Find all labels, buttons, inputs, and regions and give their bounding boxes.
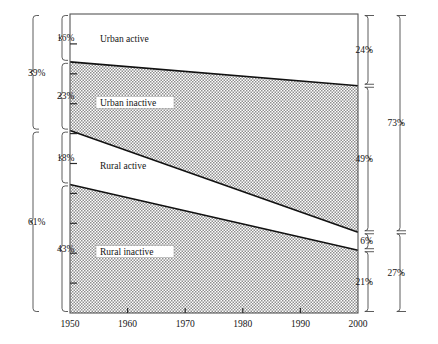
x-tick-label-1960: 1960 [118, 319, 137, 329]
right-group-urban-label: 73% [388, 118, 406, 128]
right-bracket-group: 24%49%6%21%73%27% [356, 16, 406, 312]
x-axis-tick-labels: 195019601970198019902000 [61, 319, 368, 329]
right-segment-49-label: 49% [356, 154, 374, 164]
right-group-rural-label: 27% [388, 268, 406, 278]
right-segment-21-label: 21% [356, 277, 374, 287]
right-segment-6-label: 6% [360, 236, 373, 246]
x-tick-label-2000: 2000 [349, 319, 368, 329]
chart-canvas: Urban activeUrban inactiveRural activeRu… [0, 0, 438, 344]
left-bracket-group: 16%23%18%43%39%61% [28, 16, 75, 312]
left-group-rural-label: 61% [28, 217, 46, 227]
stacked-area-chart: Urban activeUrban inactiveRural activeRu… [0, 0, 438, 344]
right-segment-24-label: 24% [356, 45, 374, 55]
band-label-urban-inactive: Urban inactive [100, 98, 156, 108]
left-segment-43-label: 43% [57, 244, 75, 254]
left-segment-18-label: 18% [57, 153, 75, 163]
band-label-urban-active: Urban active [100, 34, 149, 44]
left-segment-23-label: 23% [57, 91, 75, 101]
x-tick-label-1970: 1970 [176, 319, 195, 329]
x-tick-label-1980: 1980 [233, 319, 252, 329]
x-tick-label-1990: 1990 [291, 319, 310, 329]
x-tick-label-1950: 1950 [61, 319, 80, 329]
band-label-rural-active: Rural active [100, 161, 146, 171]
left-segment-16-label: 16% [57, 33, 75, 43]
left-group-urban-label: 39% [28, 68, 46, 78]
band-label-rural-inactive: Rural inactive [100, 247, 154, 257]
